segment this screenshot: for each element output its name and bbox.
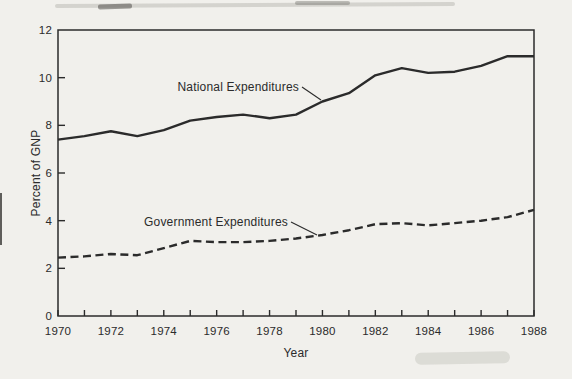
y-tick-label: 6: [45, 167, 52, 179]
y-tick-label: 8: [45, 119, 52, 131]
y-tick-label: 2: [45, 262, 52, 274]
x-axis-title: Year: [283, 346, 308, 360]
y-tick-label: 0: [45, 310, 52, 322]
annotations-group: National ExpendituresGovernment Expendit…: [144, 80, 321, 235]
annotation-national-expenditures-leader-line: [302, 87, 321, 100]
y-tick-label: 10: [39, 72, 52, 84]
x-tick-label: 1976: [203, 325, 229, 337]
y-tick-label: 4: [45, 215, 52, 227]
x-tick-label: 1978: [256, 325, 282, 337]
y-tick-label: 12: [39, 24, 52, 36]
y-axis-title: Percent of GNP: [29, 130, 43, 217]
series-line-national-expenditures: [58, 56, 534, 139]
chart-svg: 1970197219741976197819801982198419861988…: [0, 0, 572, 379]
series-line-government-expenditures: [58, 210, 534, 258]
annotation-government-expenditures-label: Government Expenditures: [144, 215, 288, 229]
x-tick-label: 1982: [362, 325, 388, 337]
x-tick-label: 1970: [45, 325, 71, 337]
line-chart-figure: 1970197219741976197819801982198419861988…: [0, 0, 572, 379]
x-tick-label: 1984: [415, 325, 442, 337]
x-tick-label: 1974: [151, 325, 178, 337]
annotation-national-expenditures-label: National Expenditures: [177, 80, 299, 94]
x-tick-label: 1986: [468, 325, 494, 337]
annotation-government-expenditures-leader-line: [291, 222, 317, 235]
tick-labels-group: 1970197219741976197819801982198419861988…: [39, 24, 547, 337]
x-tick-label: 1972: [98, 325, 124, 337]
x-tick-label: 1980: [309, 325, 335, 337]
plot-border: [58, 30, 534, 316]
x-tick-label: 1988: [521, 325, 547, 337]
